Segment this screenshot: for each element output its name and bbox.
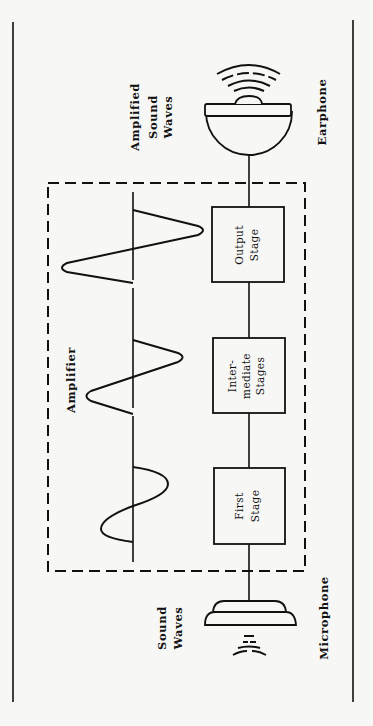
microphone-icon — [205, 601, 296, 655]
svg-text:Waves: Waves — [161, 96, 175, 140]
intermediate-stage-line-2: mediate — [240, 353, 252, 399]
output-stage-line-2: Stage — [248, 229, 260, 262]
earphone-icon — [205, 65, 292, 155]
svg-text:Amplified: Amplified — [128, 83, 142, 152]
first-stage-line-1: First — [233, 492, 245, 520]
sound-waves-label: Sound Waves — [155, 606, 185, 650]
microphone-label: Microphone — [317, 576, 331, 660]
output-stage-box: Output Stage — [212, 207, 284, 282]
amplified-sound-waves-label: Amplified Sound Waves — [128, 83, 175, 152]
amplifier-diagram: Output Stage Inter- mediate Stages First… — [0, 0, 373, 726]
intermediate-wave — [87, 340, 183, 414]
first-stage-box: First Stage — [214, 468, 285, 544]
output-stage-line-1: Output — [233, 225, 245, 265]
amplifier-label: Amplifier — [64, 347, 78, 414]
first-stage-line-2: Stage — [249, 490, 261, 523]
intermediate-stage-line-3: Stages — [254, 357, 266, 395]
earphone-label: Earphone — [315, 79, 329, 146]
svg-text:Sound: Sound — [146, 95, 160, 139]
svg-text:Waves: Waves — [171, 607, 185, 651]
intermediate-stages-box: Inter- mediate Stages — [213, 338, 285, 413]
intermediate-stage-line-1: Inter- — [226, 360, 238, 392]
svg-text:Sound: Sound — [155, 606, 169, 650]
first-wave — [101, 467, 168, 542]
